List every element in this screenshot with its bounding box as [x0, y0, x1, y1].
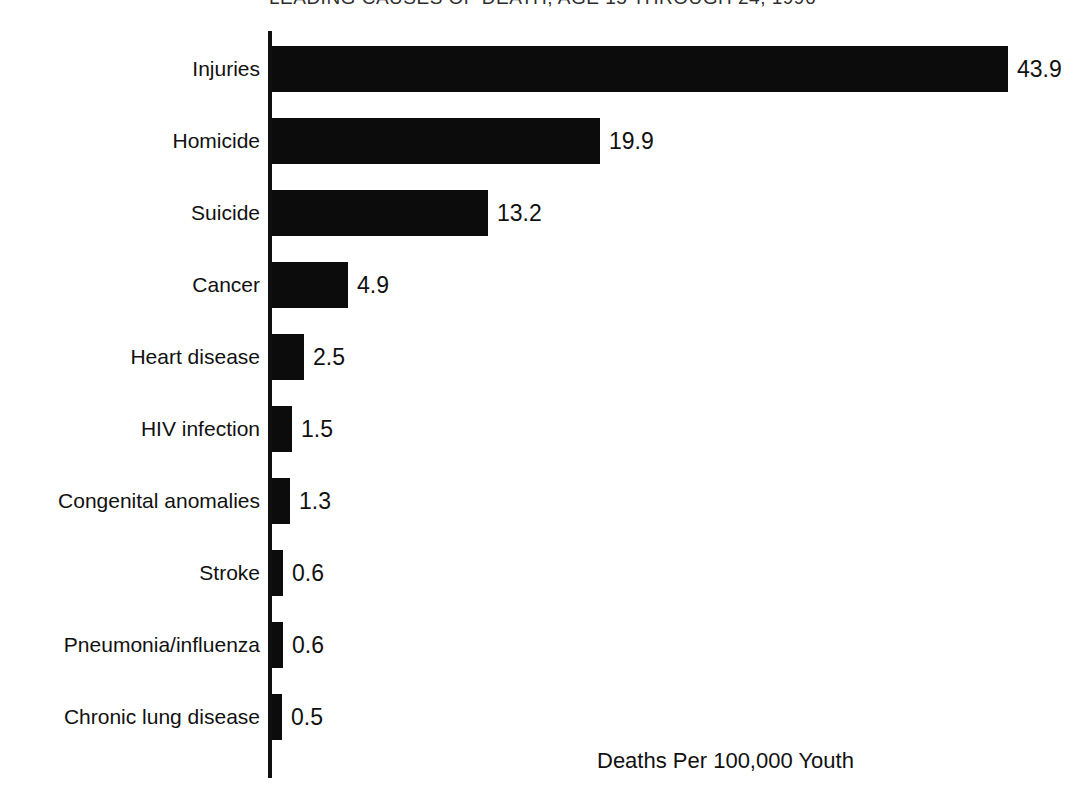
bar-value-label: 0.6	[292, 550, 324, 596]
bar	[272, 694, 282, 740]
category-label: Suicide	[191, 190, 260, 236]
bar-value-label: 0.6	[292, 622, 324, 668]
bar-value-label: 4.9	[357, 262, 389, 308]
bar	[272, 550, 283, 596]
category-label: Pneumonia/influenza	[64, 622, 260, 668]
bar-row: Homicide19.9	[0, 118, 1085, 164]
category-label: Injuries	[192, 46, 260, 92]
bar-value-label: 1.5	[301, 406, 333, 452]
bar-value-label: 19.9	[609, 118, 654, 164]
bar-row: Stroke0.6	[0, 550, 1085, 596]
bar-value-label: 13.2	[497, 190, 542, 236]
category-label: Chronic lung disease	[64, 694, 260, 740]
bar	[272, 622, 283, 668]
bar-value-label: 43.9	[1017, 46, 1062, 92]
bar-row: Cancer4.9	[0, 262, 1085, 308]
bar-row: Injuries43.9	[0, 46, 1085, 92]
bar	[272, 478, 290, 524]
bar	[272, 334, 304, 380]
bar-value-label: 0.5	[291, 694, 323, 740]
plot-area: Injuries43.9Homicide19.9Suicide13.2Cance…	[0, 0, 1085, 802]
category-label: Congenital anomalies	[58, 478, 260, 524]
bar-row: Pneumonia/influenza0.6	[0, 622, 1085, 668]
bar-value-label: 2.5	[313, 334, 345, 380]
bar-row: Suicide13.2	[0, 190, 1085, 236]
bar-row: HIV infection1.5	[0, 406, 1085, 452]
bar-row: Heart disease2.5	[0, 334, 1085, 380]
bar	[272, 190, 488, 236]
category-label: Cancer	[192, 262, 260, 308]
bar-value-label: 1.3	[299, 478, 331, 524]
bar	[272, 406, 292, 452]
category-label: Heart disease	[130, 334, 260, 380]
bar	[272, 262, 348, 308]
x-axis-caption: Deaths Per 100,000 Youth	[597, 748, 854, 774]
bar	[272, 46, 1008, 92]
category-label: HIV infection	[141, 406, 260, 452]
bar-row: Congenital anomalies1.3	[0, 478, 1085, 524]
category-label: Stroke	[199, 550, 260, 596]
bar-row: Chronic lung disease0.5	[0, 694, 1085, 740]
category-label: Homicide	[172, 118, 260, 164]
bar	[272, 118, 600, 164]
